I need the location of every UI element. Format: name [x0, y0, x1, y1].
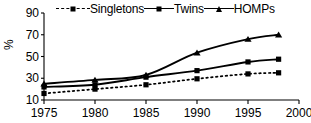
line-chart: Singletons Twins HOMPs % 103050709019751…: [0, 0, 311, 123]
data-point-twins: [194, 68, 199, 73]
series-line-twins: [44, 59, 279, 87]
y-tick-label: 70: [26, 28, 40, 42]
data-point-singletons: [41, 91, 46, 96]
data-point-singletons: [194, 76, 199, 81]
data-point-singletons: [245, 71, 250, 76]
x-tick-label: 1980: [82, 106, 109, 120]
data-point-twins: [92, 82, 97, 87]
y-tick-label: 90: [26, 6, 40, 20]
x-tick-label: 1975: [31, 106, 58, 120]
data-point-singletons: [276, 70, 281, 75]
x-tick-label: 1990: [184, 106, 211, 120]
y-tick-label: 50: [26, 50, 40, 64]
y-tick-label: 30: [26, 71, 40, 85]
x-tick-label: 1995: [235, 106, 262, 120]
y-tick-label: 10: [26, 93, 40, 107]
series-line-homps: [44, 35, 279, 84]
data-point-singletons: [143, 82, 148, 87]
data-point-twins: [245, 59, 250, 64]
x-tick-label: 2000: [286, 106, 311, 120]
data-point-twins: [276, 57, 281, 62]
plot-area: 1030507090197519801985199019952000: [0, 0, 311, 123]
x-tick-label: 1985: [133, 106, 160, 120]
